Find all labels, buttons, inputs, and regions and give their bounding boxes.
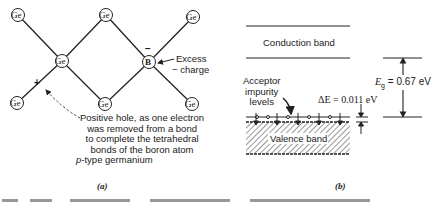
acceptor-label-line: Acceptor xyxy=(243,76,281,87)
excess-charge-arrow xyxy=(158,59,174,63)
energy-gap-label: Eg = 0.67 eV xyxy=(375,77,431,92)
boron-charge-sign: − xyxy=(145,44,151,55)
atom-label: Ge xyxy=(10,98,21,109)
excess-charge-label: Excess xyxy=(176,54,207,65)
boron-atom-label: B xyxy=(145,57,151,68)
acceptor-pointer-arrow xyxy=(283,98,291,114)
caption-cutoff xyxy=(2,199,370,202)
positive-hole-sign: + xyxy=(34,78,40,89)
atom-label: Ge xyxy=(185,99,196,110)
delta-e-bracket xyxy=(356,104,368,134)
eg-value: = 0.67 eV xyxy=(385,76,431,87)
panel-a-caption: (a) xyxy=(97,181,108,191)
atom-label: Ge xyxy=(98,99,109,110)
atom-label: Ge xyxy=(55,56,66,67)
hole-pointer-arrow xyxy=(46,90,80,118)
hole-note-line: to complete the tetrahedral xyxy=(80,134,204,145)
type-label: p-type germanium xyxy=(76,155,153,166)
panel-b-caption: (b) xyxy=(335,181,346,191)
atom-label: Ge xyxy=(99,10,110,21)
atom-label: Ge xyxy=(186,12,197,23)
atom-label: Ge xyxy=(11,10,22,21)
acceptor-label-line: levels xyxy=(243,97,281,108)
type-label-rest: -type germanium xyxy=(81,154,152,165)
delta-e-label: ΔE = 0.011 eV xyxy=(318,95,377,106)
hole-note: Positive hole, as one electron was remov… xyxy=(80,113,204,155)
acceptor-label: Acceptor impurity levels xyxy=(243,76,281,108)
valence-band-label: Valence band xyxy=(270,134,327,145)
conduction-band-label: Conduction band xyxy=(263,38,335,49)
bond-lines xyxy=(17,15,193,104)
excess-charge-label: − charge xyxy=(172,65,209,76)
hole-note-line: Positive hole, as one electron xyxy=(80,113,204,124)
